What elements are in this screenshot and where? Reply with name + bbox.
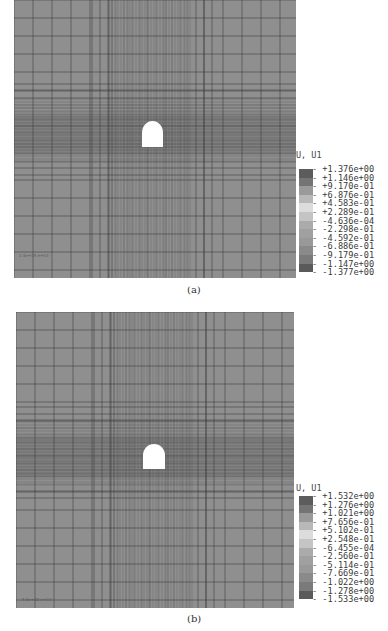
legend-title: U, U1: [296, 150, 322, 160]
legend-swatch: [299, 212, 313, 221]
contour-legend-b: U, U1 +1.532e+00+1.276e+00+1.021e+00+7.6…: [296, 483, 388, 608]
legend-value: -1.377e+00: [312, 268, 374, 277]
legend-swatch: [299, 186, 313, 195]
figure-a: 2.4e+05 e+03 U, U1 +1.376e+00+1.146e+00+…: [0, 0, 388, 300]
mesh-scale-label: 5.6e+05 e+03: [22, 597, 51, 602]
legend-swatch: [299, 178, 313, 187]
legend-swatch: [299, 229, 313, 238]
legend-swatch: [299, 573, 313, 582]
legend-swatch: [299, 530, 313, 539]
legend-swatch: [299, 582, 313, 591]
legend-value: -1.533e+00: [312, 595, 374, 604]
legend-color-bar: [299, 169, 313, 272]
legend-swatch: [299, 539, 313, 548]
legend-value-labels: +1.376e+00+1.146e+00+9.170e-01+6.876e-01…: [312, 165, 374, 277]
caption-b: (b): [187, 613, 201, 624]
legend-swatch: [299, 221, 313, 230]
legend-swatch: [299, 565, 313, 574]
figure-b: 5.6e+05 e+03 U, U1 +1.532e+00+1.276e+00+…: [0, 300, 388, 631]
legend-color-bar: [299, 496, 313, 599]
legend-swatch: [299, 238, 313, 247]
fe-mesh-plot-a: 2.4e+05 e+03: [14, 0, 296, 278]
mesh-scale-label: 2.4e+05 e+03: [19, 253, 48, 258]
legend-swatch: [299, 195, 313, 204]
legend-swatch: [299, 556, 313, 565]
legend-swatch: [299, 264, 313, 273]
legend-swatch: [299, 591, 313, 600]
legend-swatch: [299, 505, 313, 514]
caption-a: (a): [187, 284, 201, 295]
legend-swatch: [299, 496, 313, 505]
legend-swatch: [299, 255, 313, 264]
fe-mesh-plot-b: 5.6e+05 e+03: [16, 312, 294, 608]
legend-swatch: [299, 513, 313, 522]
legend-swatch: [299, 522, 313, 531]
legend-value-labels: +1.532e+00+1.276e+00+1.021e+00+7.656e-01…: [312, 492, 374, 604]
legend-swatch: [299, 203, 313, 212]
legend-swatch: [299, 548, 313, 557]
tunnel-opening: [143, 444, 165, 469]
contour-legend-a: U, U1 +1.376e+00+1.146e+00+9.170e-01+6.8…: [296, 150, 388, 275]
legend-swatch: [299, 169, 313, 178]
legend-swatch: [299, 246, 313, 255]
tunnel-opening: [142, 121, 163, 147]
